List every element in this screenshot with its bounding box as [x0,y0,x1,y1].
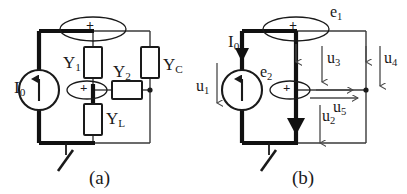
panel-b-current-source [222,70,262,110]
panel-a-label-yl: YL [106,110,125,129]
figure-canvas: I0 Y1 Y2 YC YL + + (a) [0,0,407,194]
resistor-yl-icon [84,104,102,135]
panel-a-label-y2: Y2 [113,63,131,82]
resistor-y2-icon [112,81,142,99]
panel-a-label-y1: Y1 [63,54,81,73]
panel-b-plus-e2: + [283,81,290,94]
junction-dot [363,87,368,92]
panel-a-plus-mid: + [80,81,87,94]
panel-b-label-e1: e1 [330,4,342,23]
panel-b-current-label-i0: I0 [228,33,239,52]
resistor-y1-icon [84,47,102,78]
resistor-yc-icon [141,47,159,78]
panel-b-label-u4: u4 [384,50,397,69]
panel-a-caption: (a) [89,168,110,187]
panel-b-label-e2: e2 [260,64,272,83]
panel-b-plus-e1: + [289,19,297,33]
branch-arrow-down-u2-icon [287,118,305,135]
ground-slash-icon [58,143,73,171]
panel-a-source-label: I0 [14,79,25,98]
panel-b-label-u5: u5 [333,99,346,118]
panel-b-label-u1: u1 [196,78,209,97]
panel-a-plus-top: + [86,19,94,33]
panel-a-circuit [0,0,204,194]
panel-b-graph [203,0,407,194]
panel-a-label-yc: YC [163,56,183,75]
panel-b-label-u3: u3 [327,50,340,69]
ground-slash-icon [261,143,276,171]
junction-dot [147,87,152,92]
panel-b-caption: (b) [292,168,314,187]
